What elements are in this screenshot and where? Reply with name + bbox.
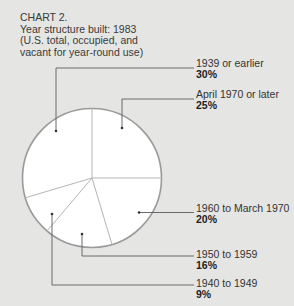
label-1950-to-1959: 1950 to 1959 16% bbox=[196, 249, 257, 271]
label-1939-or-earlier: 1939 or earlier 30% bbox=[196, 58, 264, 80]
label-percent: 30% bbox=[196, 69, 264, 80]
label-percent: 16% bbox=[196, 260, 257, 271]
label-percent: 25% bbox=[196, 100, 279, 111]
label-1940-to-1949: 1940 to 1949 9% bbox=[196, 278, 257, 300]
label-percent: 9% bbox=[196, 289, 257, 300]
label-april-1970-or-later: April 1970 or later 25% bbox=[196, 89, 279, 111]
label-1960-to-march-1970: 1960 to March 1970 20% bbox=[196, 203, 289, 225]
label-percent: 20% bbox=[196, 214, 289, 225]
